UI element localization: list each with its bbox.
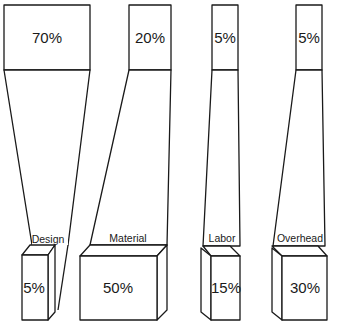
category-overhead: 5% Overhead 30% xyxy=(272,5,327,320)
category-material: 20% Material 50% xyxy=(80,5,171,320)
overhead-label: Overhead xyxy=(277,232,323,244)
design-top-value: 70% xyxy=(32,29,62,46)
labor-funnel xyxy=(203,70,240,246)
overhead-box-side xyxy=(272,248,282,320)
design-funnel xyxy=(4,70,90,245)
overhead-funnel xyxy=(273,70,325,246)
design-bottom-value: 5% xyxy=(23,279,45,296)
funnel-diagram: 70% Design 5% 20% Material 50% 5% Labor … xyxy=(0,0,342,327)
category-design: 70% Design 5% xyxy=(4,5,90,320)
material-top-value: 20% xyxy=(135,29,165,46)
material-label: Material xyxy=(109,232,146,244)
material-bottom-value: 50% xyxy=(103,279,133,296)
material-funnel xyxy=(90,70,171,245)
labor-top-value: 5% xyxy=(214,29,236,46)
labor-bottom-value: 15% xyxy=(211,279,241,296)
overhead-bottom-value: 30% xyxy=(290,279,320,296)
labor-box-side xyxy=(201,248,211,320)
material-box-top xyxy=(80,245,167,256)
overhead-top-value: 5% xyxy=(298,29,320,46)
material-box-side xyxy=(157,245,167,320)
design-box-side xyxy=(48,245,55,320)
labor-label: Labor xyxy=(209,232,236,244)
category-labor: 5% Labor 15% xyxy=(201,5,241,320)
design-label: Design xyxy=(32,233,65,245)
